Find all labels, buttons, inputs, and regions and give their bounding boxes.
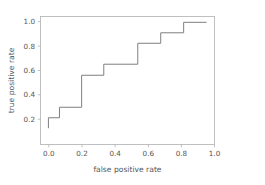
y-axis-title: true positive rate: [7, 47, 16, 113]
x-tick-label: 0.0: [43, 149, 55, 158]
plot-area-background: [41, 17, 215, 145]
y-tick-label: 0.2: [24, 115, 35, 124]
x-tick-label: 1.0: [209, 149, 221, 158]
roc-curve-figure: 0.0 0.2 0.4 0.6 0.8 1.0 0.2 0.4 0.6 0.8 …: [0, 0, 265, 185]
x-tick-label: 0.2: [76, 149, 87, 158]
y-tick-label: 0.8: [24, 42, 36, 51]
x-axis-tick-labels: 0.0 0.2 0.4 0.6 0.8 1.0: [43, 149, 221, 158]
x-tick-label: 0.8: [176, 149, 188, 158]
y-axis-ticks: [38, 22, 41, 120]
y-tick-label: 0.6: [24, 66, 36, 75]
x-tick-label: 0.4: [109, 149, 121, 158]
x-axis-title: false positive rate: [93, 165, 161, 174]
y-axis-tick-labels: 0.2 0.4 0.6 0.8 1.0: [24, 17, 36, 124]
roc-chart-canvas: 0.0 0.2 0.4 0.6 0.8 1.0 0.2 0.4 0.6 0.8 …: [0, 0, 265, 185]
x-tick-label: 0.6: [143, 149, 155, 158]
y-tick-label: 1.0: [24, 17, 36, 26]
y-tick-label: 0.4: [24, 90, 36, 99]
x-axis-ticks: [49, 145, 215, 148]
